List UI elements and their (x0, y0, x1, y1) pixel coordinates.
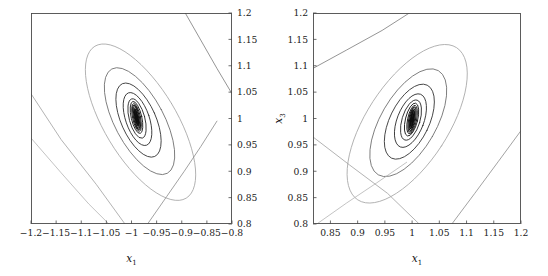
x-axis-label: x1 (126, 252, 136, 267)
contour-lines-group (313, 13, 521, 224)
x-tick-label: 1.05 (429, 227, 450, 238)
y-axis-label: x3 (274, 113, 287, 123)
x-tick-label: −0.85 (193, 227, 221, 238)
x-tick-label: 1.15 (484, 227, 505, 238)
x-tick-label: 0.85 (320, 227, 341, 238)
x-tick-label: −0.95 (143, 227, 171, 238)
y-tick-label: 1.15 (237, 34, 258, 45)
y-tick-label: 0.95 (288, 139, 309, 150)
contour-panel-left: −1.2−1.15−1.1−1.05−1−0.95−0.9−0.85−0.80.… (0, 0, 274, 276)
contour-open-branch-1 (313, 13, 409, 68)
contour-panel-right: 0.850.90.9511.051.11.151.20.80.850.90.95… (274, 0, 548, 276)
contour-open-branch-2 (313, 137, 419, 224)
x-tick-label: −1.2 (20, 227, 42, 238)
x-tick-label: 1.2 (514, 227, 529, 238)
y-tick-label: 0.95 (237, 139, 258, 150)
contour-plot-right-svg: 0.850.90.9511.051.11.151.20.80.850.90.95… (274, 0, 548, 276)
contour-open-branch-3 (317, 162, 407, 224)
y-tick-label: 0.9 (293, 166, 308, 177)
y-tick-label: 1.05 (288, 86, 309, 97)
y-tick-label: 0.85 (237, 192, 258, 203)
y-tick-label: 1.1 (293, 60, 308, 71)
y-tick-label: 1 (302, 113, 308, 124)
x-tick-label: −1 (125, 227, 139, 238)
contour-open-branch-2 (31, 94, 125, 224)
x-tick-label: 1 (409, 227, 415, 238)
y-tick-label: 0.9 (237, 166, 252, 177)
y-tick-label: 1.2 (237, 7, 252, 18)
y-tick-label: 1.05 (237, 86, 258, 97)
contour-lines-group (31, 13, 232, 224)
y-tick-label: 0.85 (288, 192, 309, 203)
x-tick-label: −0.9 (171, 227, 193, 238)
y-tick-label: 1.15 (288, 34, 309, 45)
y-tick-label: 1.2 (293, 7, 308, 18)
contour-open-branch-4 (148, 121, 217, 224)
y-tick-label: 0.8 (237, 218, 252, 229)
y-tick-label: 0.8 (293, 218, 308, 229)
x-tick-label: 1.1 (459, 227, 474, 238)
x-tick-label: −1.05 (92, 227, 120, 238)
y-tick-label: 1 (237, 113, 243, 124)
x-tick-label: −1.1 (70, 227, 92, 238)
x-tick-label: 0.9 (350, 227, 365, 238)
x-axis-label: x1 (412, 252, 422, 267)
y-tick-label: 1.1 (237, 60, 252, 71)
x-tick-label: −1.15 (42, 227, 70, 238)
contour-open-branch-1 (185, 13, 232, 94)
contour-figure: −1.2−1.15−1.1−1.05−1−0.95−0.9−0.85−0.80.… (0, 0, 548, 276)
contour-plot-left-svg: −1.2−1.15−1.1−1.05−1−0.95−0.9−0.85−0.80.… (0, 0, 274, 276)
x-tick-label: 0.95 (375, 227, 396, 238)
contour-open-branch-4 (452, 131, 521, 224)
